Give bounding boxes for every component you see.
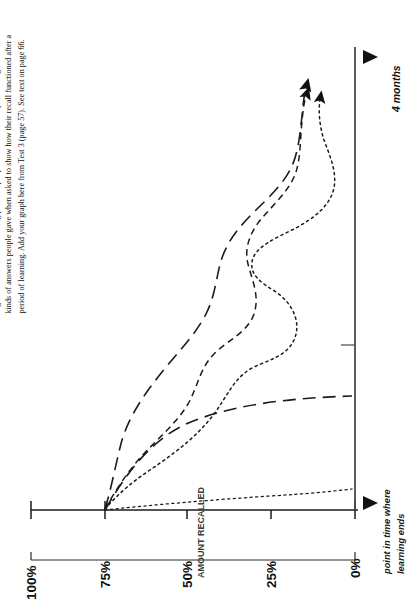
learning-ends-label-line2: learning ends: [395, 514, 407, 574]
y-tick-label-25: 25%: [264, 561, 279, 588]
y-tick-label-75: 75%: [98, 561, 113, 588]
four-months-label: 4 months: [390, 65, 402, 112]
series-estimate-d-dotted-plateau: [105, 100, 335, 509]
value-axis-title: AMOUNT RECALLED: [196, 487, 206, 578]
time-axis: [341, 47, 355, 510]
learning-ends-label-line1: point in time where: [381, 489, 393, 574]
series-estimate-a-flat-decline: [105, 396, 352, 510]
y-tick-label-0: 0%: [348, 558, 363, 578]
value-axis-bracket: [31, 552, 355, 560]
series-estimate-e-near-total-loss: [105, 489, 352, 510]
y-tick-label-100: 100%: [24, 565, 39, 600]
series-estimate-b-steep-then-wavy: [105, 88, 306, 509]
axis-marker-triangles: [363, 50, 378, 510]
value-axis: [31, 501, 358, 519]
y-tick-label-50: 50%: [180, 561, 195, 588]
series-estimate-c-medium-dash-wavy: [105, 96, 306, 509]
